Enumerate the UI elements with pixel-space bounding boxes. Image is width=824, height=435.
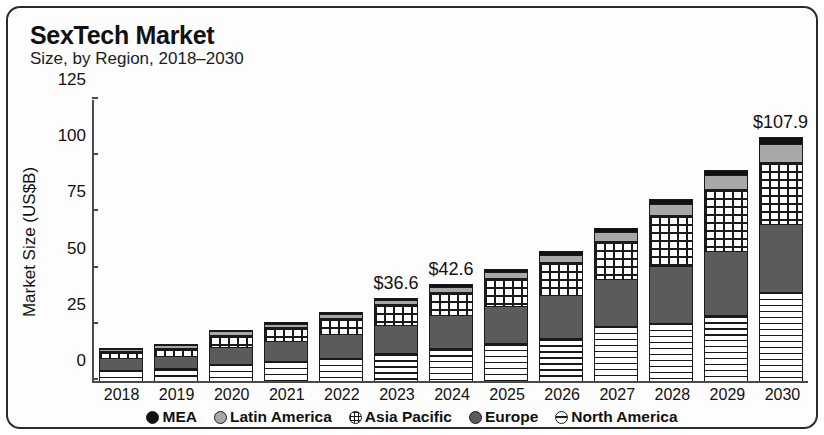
legend-item[interactable]: Asia Pacific — [349, 408, 452, 426]
y-axis-tick-label: 50 — [26, 239, 86, 259]
bar-slot — [643, 100, 698, 381]
bar-segment-na[interactable] — [595, 327, 637, 381]
stacked-bar[interactable] — [154, 344, 198, 381]
bar-segment-ap[interactable] — [210, 336, 252, 349]
bar-segment-la[interactable] — [650, 205, 692, 216]
bar-slot — [149, 100, 204, 381]
bar-slot — [204, 100, 259, 381]
bar-segment-ap[interactable] — [320, 319, 362, 335]
bar-slot: $36.6 — [369, 100, 424, 381]
bar-segment-la[interactable] — [540, 256, 582, 264]
legend-item[interactable]: Europe — [469, 408, 538, 426]
bar-segment-eu[interactable] — [650, 267, 692, 324]
bar-segment-ap[interactable] — [650, 216, 692, 267]
y-axis-tick-label: 0 — [26, 351, 86, 371]
bar-slot: $42.6 — [424, 100, 479, 381]
bar-slot: $107.9 — [753, 100, 808, 381]
bar-slot — [259, 100, 314, 381]
bar-segment-na[interactable] — [650, 324, 692, 381]
stacked-bar[interactable]: $42.6 — [429, 284, 473, 381]
x-axis-tick-label: 2026 — [535, 386, 590, 404]
x-axis-tick-label: 2018 — [94, 386, 149, 404]
bar-segment-eu[interactable] — [705, 252, 747, 316]
legend-item[interactable]: MEA — [146, 408, 196, 426]
stacked-bar[interactable]: $107.9 — [759, 137, 803, 381]
legend-item[interactable]: North America — [555, 408, 677, 426]
y-axis-tick-mark — [92, 97, 98, 99]
bar-slot — [698, 100, 753, 381]
bar-slot — [314, 100, 369, 381]
stacked-bar[interactable] — [99, 348, 143, 381]
bar-segment-ap[interactable] — [155, 349, 197, 358]
bar-segment-eu[interactable] — [100, 359, 142, 370]
x-axis-tick-label: 2024 — [424, 386, 479, 404]
bar-segment-eu[interactable] — [760, 225, 802, 294]
bar-segment-la[interactable] — [705, 176, 747, 189]
chart-card: SexTech Market Size, by Region, 2018–203… — [6, 6, 818, 429]
bar-segment-na[interactable] — [760, 293, 802, 381]
bar-segment-ap[interactable] — [705, 190, 747, 252]
bar-segment-eu[interactable] — [320, 335, 362, 358]
x-axis-line — [92, 381, 808, 383]
y-axis-tick-label: 75 — [26, 182, 86, 202]
stacked-bar[interactable] — [594, 228, 638, 381]
stacked-bar[interactable] — [209, 330, 253, 381]
bar-segment-na[interactable] — [430, 349, 472, 381]
stacked-bar[interactable]: $36.6 — [374, 298, 418, 381]
x-axis-tick-label: 2019 — [149, 386, 204, 404]
chart-title: SexTech Market — [30, 22, 244, 48]
bar-segment-na[interactable] — [375, 354, 417, 381]
bar-segment-la[interactable] — [595, 233, 637, 242]
legend-item-label: MEA — [162, 408, 196, 426]
bar-segment-na[interactable] — [485, 344, 527, 381]
stacked-bar[interactable] — [484, 269, 528, 381]
bar-segment-la[interactable] — [760, 145, 802, 163]
bar-segment-na[interactable] — [705, 316, 747, 381]
bar-segment-eu[interactable] — [210, 348, 252, 365]
bar-segment-ap[interactable] — [760, 163, 802, 225]
bar-segment-ap[interactable] — [265, 328, 307, 342]
stacked-bar[interactable] — [649, 199, 693, 381]
legend-item[interactable]: Latin America — [214, 408, 332, 426]
bar-segment-eu[interactable] — [540, 296, 582, 339]
stacked-bar[interactable] — [704, 170, 748, 381]
stacked-bar[interactable] — [264, 322, 308, 381]
bar-segment-na[interactable] — [265, 362, 307, 381]
y-axis-tick-label: 100 — [26, 126, 86, 146]
bar-segment-ap[interactable] — [595, 242, 637, 280]
plot-area: Market Size (US$B) 0255075100125 $36.6$4… — [92, 100, 808, 383]
stacked-bar[interactable] — [539, 251, 583, 381]
bar-segment-ap[interactable] — [375, 305, 417, 325]
x-axis-tick-label: 2020 — [204, 386, 259, 404]
legend-item-label: Asia Pacific — [365, 408, 452, 426]
stacked-bar[interactable] — [319, 312, 363, 381]
bar-segment-ap[interactable] — [540, 263, 582, 295]
bar-segment-ap[interactable] — [100, 352, 142, 359]
bar-segment-eu[interactable] — [375, 326, 417, 354]
chart-legend: MEALatin AmericaAsia PacificEuropeNorth … — [8, 408, 816, 426]
mea-swatch-icon — [146, 411, 159, 424]
x-axis-tick-label: 2023 — [369, 386, 424, 404]
bar-segment-ap[interactable] — [485, 279, 527, 306]
bar-slot — [588, 100, 643, 381]
bar-segment-na[interactable] — [155, 369, 197, 381]
bar-value-label: $107.9 — [753, 112, 808, 133]
legend-item-label: North America — [571, 408, 677, 426]
bar-segment-eu[interactable] — [595, 280, 637, 327]
x-axis-ticks: 2018201920202021202220232024202520262027… — [94, 386, 810, 404]
bar-segment-eu[interactable] — [265, 342, 307, 362]
bar-segment-na[interactable] — [540, 339, 582, 381]
bar-segment-ap[interactable] — [430, 293, 472, 316]
bar-segment-na[interactable] — [320, 359, 362, 381]
y-axis-tick-label: 25 — [26, 295, 86, 315]
bar-segment-eu[interactable] — [155, 357, 197, 369]
bar-segment-na[interactable] — [100, 371, 142, 381]
bar-segment-eu[interactable] — [430, 316, 472, 349]
bar-segment-na[interactable] — [210, 365, 252, 381]
bar-series-group: $36.6$42.6$107.9 — [94, 100, 808, 381]
bar-segment-eu[interactable] — [485, 307, 527, 345]
x-axis-tick-label: 2022 — [314, 386, 369, 404]
europe-swatch-icon — [469, 411, 482, 424]
x-axis-tick-label: 2027 — [590, 386, 645, 404]
bar-slot — [478, 100, 533, 381]
